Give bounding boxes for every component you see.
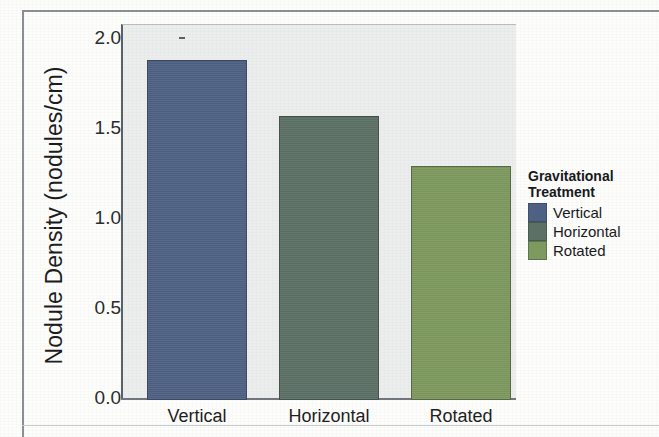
bar-rect-horizontal[interactable] [279,116,379,400]
x-axis-labels: Vertical Horizontal Rotated [121,406,516,434]
bar-rect-rotated[interactable] [411,166,511,400]
legend-swatch-horizontal [528,222,547,241]
x-tick-label-vertical: Vertical [127,406,267,427]
y-tick-label-2: 1.0 [75,207,121,229]
legend-label-rotated: Rotated [553,242,606,259]
bar-rect-vertical[interactable] [147,60,247,400]
legend-item-horizontal[interactable]: Horizontal [528,222,653,241]
x-tick-label-rotated: Rotated [391,406,531,427]
y-tick-label-4: 2.0 [75,27,121,49]
figure-root: Nodule Density (nodules/cm) 0.0 0.5 1.0 … [0,0,659,437]
y-tick-label-0: 0.0 [75,387,121,409]
legend-label-horizontal: Horizontal [553,223,621,240]
bars-layer: a ab b [121,24,516,400]
y-tick-label-1: 0.5 [75,297,121,319]
legend-title: Gravitational Treatment [528,168,646,200]
legend-label-vertical: Vertical [553,204,602,221]
y-tick-label-3: 1.5 [75,117,121,139]
legend-title-line2: Treatment [528,184,646,200]
figure-border-left [22,10,24,437]
legend-swatch-vertical [528,203,547,222]
legend-item-rotated[interactable]: Rotated [528,241,653,260]
x-tick-label-horizontal: Horizontal [259,406,399,427]
legend: Gravitational Treatment Vertical Horizon… [528,168,653,260]
legend-item-vertical[interactable]: Vertical [528,203,653,222]
legend-title-line1: Gravitational [528,168,646,184]
legend-swatch-rotated [528,241,547,260]
y-axis-ticks: 0.0 0.5 1.0 1.5 2.0 [62,0,121,437]
